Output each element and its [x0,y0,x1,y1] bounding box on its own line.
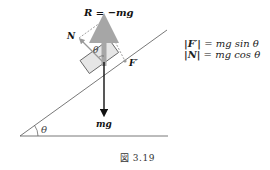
formula-lhs: |F′| [184,38,201,49]
incline-angle-arc [35,126,38,137]
normal-label: N [67,32,75,41]
formula-lhs: |N| [184,49,200,60]
incline-diagram [0,0,270,170]
formula-friction: |F′| = mg sin θ [184,39,259,49]
formula-normal: |N| = mg cos θ [184,50,260,60]
formula-rhs: = mg cos θ [204,49,261,60]
dashed-line [79,20,104,38]
weight-label: mg [96,120,112,129]
figure-caption: 図 3.19 [120,151,155,164]
resultant-label: R = −mg [84,8,134,18]
block-angle-label: θ [93,46,98,55]
friction-label: F′ [129,59,138,68]
formula-rhs: = mg sin θ [204,38,259,49]
incline-angle-label: θ [41,125,47,135]
friction-point [123,59,126,62]
